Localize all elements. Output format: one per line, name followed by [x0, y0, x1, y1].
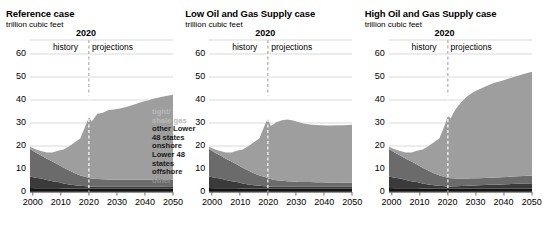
- x-axis-tick-label: 2030: [462, 197, 490, 207]
- x-axis-tick-label: 2040: [131, 197, 159, 207]
- y-axis-tick-label: 30: [0, 117, 26, 127]
- y-axis-tick-label: 20: [179, 140, 205, 150]
- y-axis-tick-label: 30: [359, 117, 385, 127]
- y-axis-tick-label: 50: [359, 71, 385, 81]
- y-axis-tick-label: 60: [179, 48, 205, 58]
- y-axis-tick-label: 60: [359, 48, 385, 58]
- y-axis-tick-label: 10: [359, 163, 385, 173]
- x-axis-tick-label: 2010: [47, 197, 75, 207]
- y-axis-tick-label: 50: [0, 71, 26, 81]
- x-axis-tick-label: 2020: [254, 197, 282, 207]
- y-axis-tick-label: 0: [0, 186, 26, 196]
- y-axis-tick-label: 0: [359, 186, 385, 196]
- y-axis-tick-label: 50: [179, 71, 205, 81]
- divider-year-label: 2020: [76, 28, 96, 38]
- y-axis-tick-label: 60: [0, 48, 26, 58]
- panel-low-supply-case: Low Oil and Gas Supply case trillion cub…: [179, 0, 358, 225]
- projections-label: projections: [451, 42, 492, 52]
- history-label: history: [53, 42, 78, 52]
- y-axis-tick-label: 40: [0, 94, 26, 104]
- x-axis-tick-label: 2030: [103, 197, 131, 207]
- x-axis-tick-label: 2040: [310, 197, 338, 207]
- x-axis-tick-label: 2010: [226, 197, 254, 207]
- y-axis-tick-label: 40: [179, 94, 205, 104]
- x-axis-tick-label: 2000: [19, 197, 47, 207]
- y-axis-tick-label: 20: [0, 140, 26, 150]
- projections-label: projections: [92, 42, 133, 52]
- x-axis-tick-label: 2010: [405, 197, 433, 207]
- x-axis-tick-label: 2030: [282, 197, 310, 207]
- divider-year-label: 2020: [255, 28, 275, 38]
- divider-year-label: 2020: [435, 28, 455, 38]
- y-axis-tick-label: 10: [179, 163, 205, 173]
- history-label: history: [232, 42, 257, 52]
- x-axis-tick-label: 2000: [198, 197, 226, 207]
- panel-high-supply-case: High Oil and Gas Supply case trillion cu…: [359, 0, 538, 225]
- y-axis-tick-label: 30: [179, 117, 205, 127]
- panel-reference-case: Reference case trillion cubic feet 01020…: [0, 0, 179, 225]
- y-axis-tick-label: 10: [0, 163, 26, 173]
- x-axis-tick-label: 2020: [75, 197, 103, 207]
- y-axis-tick-label: 0: [179, 186, 205, 196]
- history-label: history: [412, 42, 437, 52]
- y-axis-tick-label: 20: [359, 140, 385, 150]
- x-axis-tick-label: 2040: [490, 197, 518, 207]
- x-axis-tick-label: 2050: [518, 197, 546, 207]
- source-mark: [8, 219, 30, 225]
- projections-label: projections: [271, 42, 312, 52]
- y-axis-tick-label: 40: [359, 94, 385, 104]
- x-axis-tick-label: 2020: [434, 197, 462, 207]
- x-axis-tick-label: 2000: [377, 197, 405, 207]
